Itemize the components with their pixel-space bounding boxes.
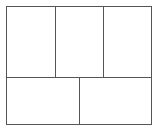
bottom-divider [79, 77, 80, 124]
top-divider-1 [55, 6, 56, 77]
top-divider-2 [103, 6, 104, 77]
